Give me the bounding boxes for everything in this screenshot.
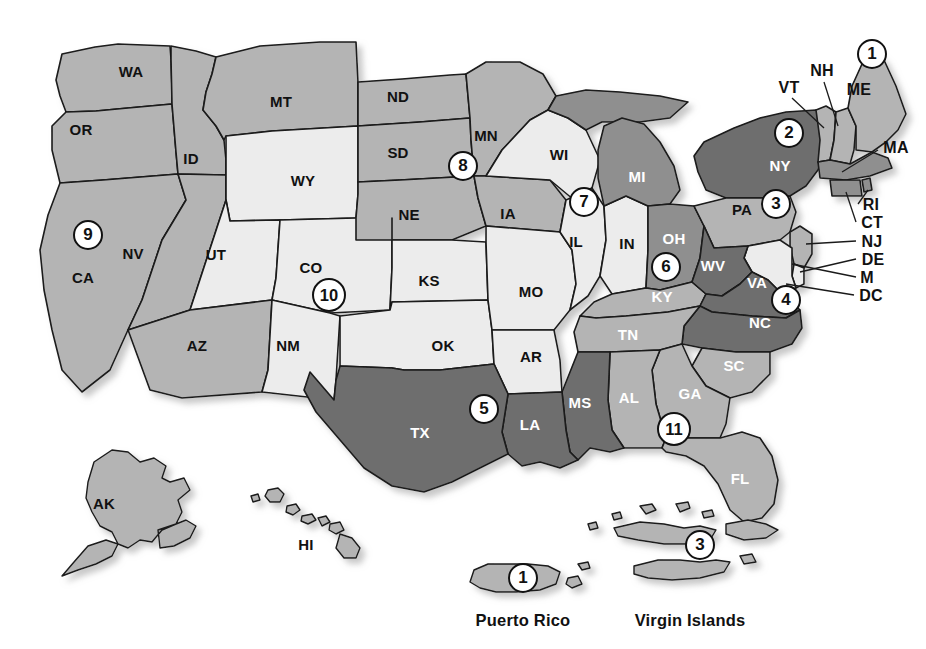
circuit-badge-11-georgia[interactable]: 11 <box>657 412 691 446</box>
state-WA <box>56 44 172 112</box>
state-label-HI: HI <box>298 536 313 553</box>
state-MT <box>203 42 358 140</box>
state-label-SD: SD <box>387 144 408 161</box>
state-label-NE: NE <box>398 206 419 223</box>
state-label-UT: UT <box>206 246 226 263</box>
state-label-NM: NM <box>276 337 300 354</box>
state-label-IN: IN <box>619 235 634 252</box>
state-label-SC: SC <box>723 357 744 374</box>
state-label-AK: AK <box>93 495 115 512</box>
map-svg <box>0 0 926 649</box>
state-label-ID: ID <box>183 150 198 167</box>
leader-NJ <box>806 241 856 244</box>
circuit-badge-9-california[interactable]: 9 <box>73 220 103 250</box>
state-label-CA: CA <box>72 269 94 286</box>
us-circuits-map: WA OR ID MT ND SD MN WI MI WY NE IA NV U… <box>0 0 926 649</box>
state-label-PA: PA <box>732 201 752 218</box>
circuit-badge-8-minnesota[interactable]: 8 <box>448 151 478 181</box>
state-label-MT: MT <box>270 93 292 110</box>
state-label-TX: TX <box>410 424 430 441</box>
state-label-MO: MO <box>519 283 544 300</box>
callout-label-RI: RI <box>863 196 879 214</box>
state-label-MI: MI <box>628 168 645 185</box>
state-label-MN: MN <box>474 127 498 144</box>
state-label-OK: OK <box>432 337 455 354</box>
state-label-TN: TN <box>618 326 638 343</box>
state-label-ND: ND <box>387 88 409 105</box>
circuit-badge-2-newyork[interactable]: 2 <box>774 118 804 148</box>
state-NE <box>356 176 486 240</box>
state-label-CO: CO <box>300 259 323 276</box>
circuit-badge-3-pennsylvania[interactable]: 3 <box>761 189 791 219</box>
circuit-badge-5-texas[interactable]: 5 <box>469 394 499 424</box>
state-label-NV: NV <box>122 245 143 262</box>
circuit-badge-1-maine[interactable]: 1 <box>857 39 887 69</box>
state-label-AZ: AZ <box>187 337 207 354</box>
callout-label-MA: MA <box>883 139 908 157</box>
state-label-LA: LA <box>520 416 540 433</box>
state-label-OH: OH <box>663 230 686 247</box>
state-OR <box>52 104 178 183</box>
state-label-IL: IL <box>569 233 583 250</box>
state-NJ <box>790 226 812 268</box>
state-label-AL: AL <box>619 389 639 406</box>
state-label-WI: WI <box>550 146 569 163</box>
state-label-NY: NY <box>769 157 790 174</box>
state-label-KS: KS <box>418 272 439 289</box>
callout-label-NH: NH <box>810 62 834 80</box>
state-label-KY: KY <box>651 288 672 305</box>
state-AK <box>62 450 196 576</box>
territory-label-virgin-islands: Virgin Islands <box>635 611 746 630</box>
state-label-AR: AR <box>520 348 542 365</box>
state-label-OR: OR <box>70 121 93 138</box>
territory-label-puerto-rico: Puerto Rico <box>476 611 571 630</box>
callout-label-M: M <box>860 269 874 287</box>
circuit-badge-3-virginislands[interactable]: 3 <box>685 530 715 560</box>
callout-label-VT: VT <box>779 79 800 97</box>
state-label-WA: WA <box>119 63 144 80</box>
callout-label-CT: CT <box>861 214 883 232</box>
state-NY <box>694 110 828 198</box>
state-label-NC: NC <box>749 314 771 331</box>
state-RI <box>862 178 872 192</box>
state-NM <box>262 300 340 400</box>
state-label-WV: WV <box>701 257 726 274</box>
state-label-VA: VA <box>747 274 767 291</box>
state-label-WY: WY <box>291 172 316 189</box>
circuit-badge-1-puertorico[interactable]: 1 <box>508 563 538 593</box>
callout-label-DC: DC <box>859 287 883 305</box>
state-label-MS: MS <box>569 394 592 411</box>
circuit-badge-7-illinois[interactable]: 7 <box>569 187 599 217</box>
circuit-badge-10-colorado[interactable]: 10 <box>312 278 346 312</box>
circuit-badge-6-ohio[interactable]: 6 <box>651 252 681 282</box>
callout-label-NJ: NJ <box>862 233 883 251</box>
callout-label-ME: ME <box>847 81 871 99</box>
callout-label-DE: DE <box>862 251 885 269</box>
state-MO <box>486 226 576 330</box>
state-IA <box>474 176 566 232</box>
state-label-FL: FL <box>731 470 750 487</box>
state-ND <box>358 74 470 126</box>
state-MI-lower <box>598 118 680 206</box>
state-label-IA: IA <box>500 205 515 222</box>
state-label-GA: GA <box>679 385 702 402</box>
circuit-badge-4-northcarolina[interactable]: 4 <box>771 285 801 315</box>
